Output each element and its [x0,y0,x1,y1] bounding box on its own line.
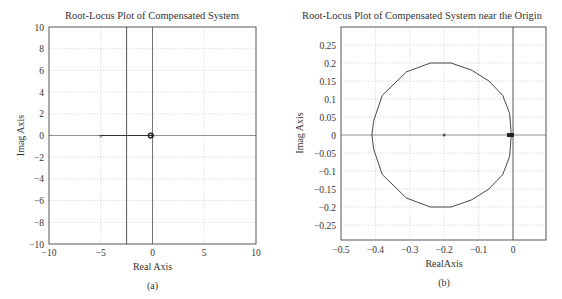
zero-marker [443,134,446,137]
svg-text:−0.3: −0.3 [401,245,418,255]
svg-text:8: 8 [39,44,44,54]
plot-b-xticks: −0.5 −0.4 −0.3 −0.2 −0.1 0 [332,245,515,255]
plot-a: Root-Locus Plot of Compensated System × [15,10,261,292]
svg-text:4: 4 [39,88,44,98]
plot-b-ylabel: Imag Axis [294,112,305,153]
svg-text:−10: −10 [42,248,57,258]
plot-a-xlabel: Real Axis [133,261,172,272]
plot-b-yticks: 0.25 0.2 0.15 0.1 0.05 0 −0.05 −0.1 −0.1… [314,41,336,231]
pole-marker: × [98,132,103,139]
pole-cluster-marker [507,133,514,137]
svg-text:−8: −8 [34,218,44,228]
plot-b-title: Root-Locus Plot of Compensated System ne… [302,10,543,21]
plot-b-caption: (b) [438,277,450,289]
plot-b: Root-Locus Plot of Compensated System ne… [294,10,546,289]
plot-a-title: Root-Locus Plot of Compensated System [65,10,239,21]
plot-a-yticks: 10 8 6 4 2 0 −2 −4 −6 −8 −10 [29,23,44,250]
svg-text:0: 0 [331,131,336,141]
svg-text:10: 10 [251,248,261,258]
svg-text:−4: −4 [34,174,44,184]
plot-a-xticks: −10 −5 0 5 10 [42,248,261,258]
figure: Root-Locus Plot of Compensated System × [0,0,562,299]
plot-a-caption: (a) [147,280,158,292]
svg-text:−0.25: −0.25 [314,221,336,231]
svg-text:−5: −5 [96,248,106,258]
svg-text:0: 0 [511,245,516,255]
svg-text:−2: −2 [34,153,44,163]
svg-text:0: 0 [150,248,155,258]
svg-text:−0.05: −0.05 [314,149,336,159]
svg-text:6: 6 [39,66,44,76]
svg-text:−0.4: −0.4 [367,245,384,255]
svg-text:5: 5 [202,248,207,258]
svg-text:10: 10 [35,23,45,33]
svg-text:2: 2 [39,109,44,119]
pole-marker-origin [151,134,153,136]
svg-text:−0.1: −0.1 [319,167,336,177]
svg-text:0.2: 0.2 [324,59,336,69]
svg-text:−0.15: −0.15 [314,185,336,195]
svg-text:−0.2: −0.2 [319,203,336,213]
svg-text:0.15: 0.15 [319,77,336,87]
svg-text:−0.5: −0.5 [332,245,349,255]
svg-text:0.05: 0.05 [319,113,336,123]
svg-text:0.25: 0.25 [319,41,336,51]
svg-text:0.1: 0.1 [324,95,336,105]
svg-text:−0.2: −0.2 [436,245,453,255]
svg-text:0: 0 [39,131,44,141]
svg-text:−6: −6 [34,196,44,206]
svg-text:−0.1: −0.1 [470,245,487,255]
plot-b-xlabel: RealAxis [425,258,462,269]
plot-a-ylabel: Imag Axis [15,115,26,156]
